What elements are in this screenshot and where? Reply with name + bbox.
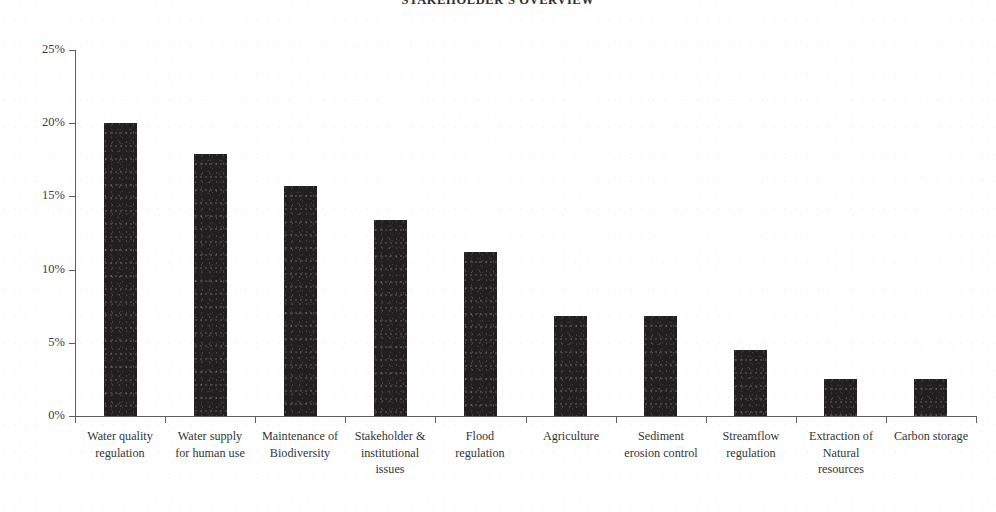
- y-axis-tick-label-text: 10%: [29, 263, 65, 276]
- x-axis-category-label-line: for human use: [159, 445, 261, 462]
- x-axis-category-label-line: institutional: [339, 445, 441, 462]
- x-axis-category-label-line: Carbon storage: [880, 428, 982, 445]
- y-axis-tick: [69, 270, 76, 271]
- bar: [284, 186, 317, 416]
- x-axis-category-label-line: Natural: [790, 445, 892, 462]
- x-axis-category-label-line: regulation: [700, 445, 802, 462]
- x-axis-tick: [255, 416, 256, 423]
- x-axis-category-label-line: Water quality: [69, 428, 171, 445]
- x-axis-tick: [526, 416, 527, 423]
- x-axis-category-label: Sedimenterosion control: [610, 428, 712, 461]
- y-axis-tick-label: 25%: [20, 43, 65, 56]
- bar: [374, 220, 407, 416]
- bar: [914, 379, 947, 416]
- y-axis-tick-label: 5%: [20, 336, 65, 349]
- x-axis-category-label-line: resources: [790, 461, 892, 478]
- x-axis-tick: [435, 416, 436, 423]
- x-axis-category-label-line: erosion control: [610, 445, 712, 462]
- x-axis-tick: [796, 416, 797, 423]
- x-axis-category-label-line: issues: [339, 461, 441, 478]
- y-axis-tick: [69, 50, 76, 51]
- x-axis-category-label-line: Stakeholder &: [339, 428, 441, 445]
- x-axis-category-label-line: Agriculture: [520, 428, 622, 445]
- bar: [464, 252, 497, 416]
- chart-title: STAKEHOLDER'S OVERVIEW: [0, 0, 996, 8]
- x-axis-tick: [165, 416, 166, 423]
- x-axis-category-label-line: Biodiversity: [249, 445, 351, 462]
- x-axis-category-label-line: Streamflow: [700, 428, 802, 445]
- y-axis-tick-label-text: 25%: [29, 43, 65, 56]
- y-axis-tick-label: 20%: [20, 116, 65, 129]
- x-axis-category-label: Carbon storage: [880, 428, 982, 445]
- y-axis-tick: [69, 343, 76, 344]
- bar: [194, 154, 227, 416]
- x-axis-category-label-line: Water supply: [159, 428, 261, 445]
- bar: [104, 123, 137, 416]
- x-axis-category-label: Streamflowregulation: [700, 428, 802, 461]
- x-axis-tick: [706, 416, 707, 423]
- x-axis-tick: [886, 416, 887, 423]
- x-axis-tick: [976, 416, 977, 423]
- bar: [644, 316, 677, 416]
- y-axis-tick-label-text: 5%: [29, 336, 65, 349]
- bar-chart-plot-area: 25%20%15%10%5%0% Water qualityregulation…: [0, 0, 996, 512]
- y-axis-tick-label: 0%: [20, 409, 65, 422]
- y-axis-tick-label: 15%: [20, 189, 65, 202]
- x-axis-category-label: Extraction ofNaturalresources: [790, 428, 892, 478]
- x-axis-category-label-line: regulation: [429, 445, 531, 462]
- x-axis-category-label-line: regulation: [69, 445, 171, 462]
- x-axis-category-label: Water supplyfor human use: [159, 428, 261, 461]
- bar: [824, 379, 857, 416]
- x-axis-category-label: Maintenance ofBiodiversity: [249, 428, 351, 461]
- x-axis-category-label: Stakeholder &institutionalissues: [339, 428, 441, 478]
- y-axis-tick: [69, 196, 76, 197]
- x-axis-tick: [75, 416, 76, 423]
- bar: [554, 316, 587, 416]
- y-axis-tick-label-text: 0%: [29, 409, 65, 422]
- x-axis-category-label-line: Sediment: [610, 428, 712, 445]
- x-axis-category-label-line: Extraction of: [790, 428, 892, 445]
- x-axis-category-label: Agriculture: [520, 428, 622, 445]
- x-axis-category-label: Water qualityregulation: [69, 428, 171, 461]
- x-axis-category-label: Floodregulation: [429, 428, 531, 461]
- x-axis-tick: [616, 416, 617, 423]
- x-axis-category-label-line: Flood: [429, 428, 531, 445]
- y-axis-tick: [69, 123, 76, 124]
- bar: [734, 350, 767, 416]
- y-axis-line: [75, 50, 76, 417]
- x-axis-tick: [345, 416, 346, 423]
- y-axis-tick-label-text: 20%: [29, 116, 65, 129]
- y-axis-tick-label-text: 15%: [29, 189, 65, 202]
- y-axis-tick-label: 10%: [20, 263, 65, 276]
- x-axis-category-label-line: Maintenance of: [249, 428, 351, 445]
